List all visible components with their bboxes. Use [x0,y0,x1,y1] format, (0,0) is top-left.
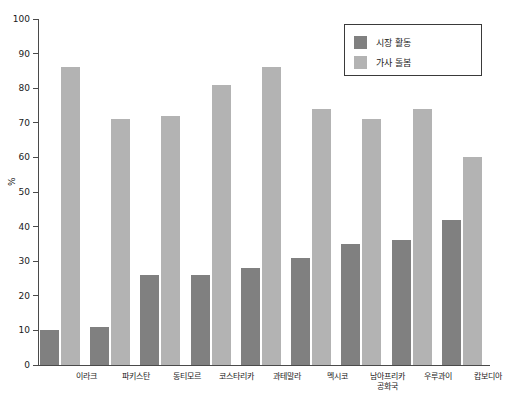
bar-household-care [61,67,80,365]
y-tick-label: 0 [24,358,30,372]
legend-swatch-series-0 [354,36,367,49]
legend-swatch-series-1 [354,56,367,69]
bar-market-activity [392,240,411,365]
y-tick-label: 90 [19,47,30,61]
bar-group [289,19,339,365]
y-tick-label: 80 [19,81,30,95]
bar-household-care [463,157,482,365]
bar-household-care [262,67,281,365]
bar-household-care [362,119,381,365]
bar-group [38,19,88,365]
y-tick-label: 60 [19,150,30,164]
bar-household-care [161,116,180,365]
legend-item: 가사 돌봄 [354,52,481,72]
legend-item: 시장 활동 [354,32,481,52]
y-tick-label: 40 [19,220,30,234]
y-tick-label: 30 [19,254,30,268]
y-tick-label: 70 [19,116,30,130]
bar-market-activity [90,327,109,365]
legend-label-series-0: 시장 활동 [376,36,411,49]
y-tick-label: 20 [19,289,30,303]
bar-household-care [212,85,231,365]
chart-legend: 시장 활동 가사 돌봄 [344,24,482,76]
bar-household-care [413,109,432,365]
y-tick-label: 50 [19,185,30,199]
bar-household-care [312,109,331,365]
bar-market-activity [191,275,210,365]
bar-market-activity [241,268,260,365]
bar-group [138,19,188,365]
x-axis-line [38,365,490,366]
bar-market-activity [40,330,59,365]
bar-household-care [111,119,130,365]
bar-market-activity [291,258,310,365]
bar-group [189,19,239,365]
y-tick-label: 100 [13,12,30,26]
y-tick-label: 10 [19,323,30,337]
bar-market-activity [140,275,159,365]
x-axis-category-label: 캄보디아 [443,372,507,382]
bar-market-activity [341,244,360,365]
bar-group [239,19,289,365]
bar-group [88,19,138,365]
legend-label-series-1: 가사 돌봄 [376,56,411,69]
y-axis-title: % [7,177,17,186]
bar-market-activity [442,220,461,365]
